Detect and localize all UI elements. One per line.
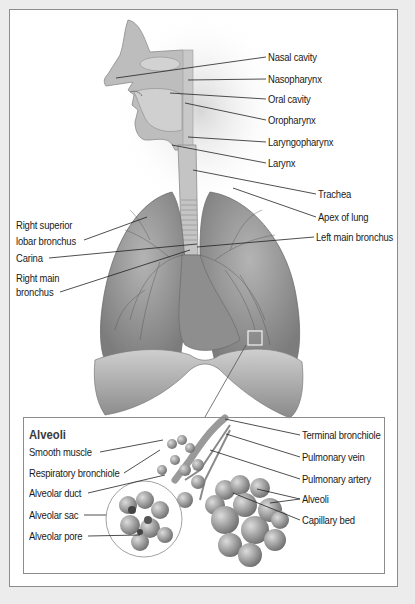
diaphragm xyxy=(94,349,303,418)
label-right-superior-lobar-bronchus-line2: lobar bronchus xyxy=(16,235,76,247)
label-capillary-bed: Capillary bed xyxy=(302,514,355,526)
label-respiratory-bronchiole: Respiratory bronchiole xyxy=(29,467,120,479)
label-laryngopharynx: Laryngopharynx xyxy=(268,136,333,148)
label-oropharynx: Oropharynx xyxy=(268,114,316,126)
label-nasopharynx: Nasopharynx xyxy=(268,73,322,85)
label-carina: Carina xyxy=(16,252,43,264)
label-alveolar-pore: Alveolar pore xyxy=(29,530,82,542)
lungs xyxy=(100,192,299,362)
label-right-superior-lobar-bronchus-line1: Right superior xyxy=(16,219,72,231)
label-larynx: Larynx xyxy=(268,157,295,169)
label-pulmonary-artery: Pulmonary artery xyxy=(302,473,371,485)
label-terminal-bronchiole: Terminal bronchiole xyxy=(302,429,381,441)
inset-title: Alveoli xyxy=(29,428,66,442)
label-alveolar-duct: Alveolar duct xyxy=(29,487,81,499)
label-nasal-cavity: Nasal cavity xyxy=(268,51,317,63)
label-left-main-bronchus: Left main bronchus xyxy=(316,231,393,243)
label-alveoli: Alveoli xyxy=(302,493,329,505)
label-apex-of-lung: Apex of lung xyxy=(318,211,368,223)
label-trachea: Trachea xyxy=(318,188,351,200)
label-oral-cavity: Oral cavity xyxy=(268,93,311,105)
label-right-main-bronchus-line2: bronchus xyxy=(16,286,53,298)
label-right-main-bronchus-line1: Right main xyxy=(16,272,59,284)
label-smooth-muscle: Smooth muscle xyxy=(29,446,92,458)
label-alveolar-sac: Alveolar sac xyxy=(29,509,78,521)
label-pulmonary-vein: Pulmonary vein xyxy=(302,451,365,463)
